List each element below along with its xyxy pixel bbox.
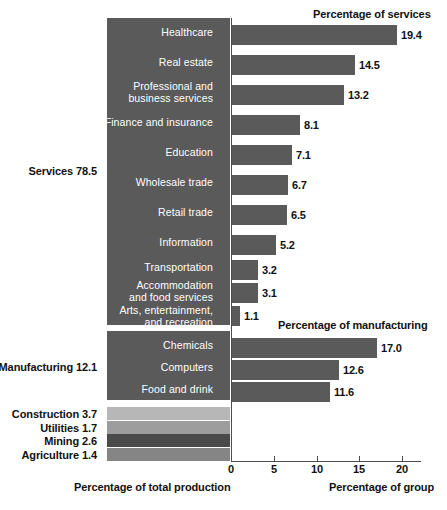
x-axis-tick-label: 15 (353, 463, 365, 475)
single-row-bar-construction (107, 407, 230, 420)
services-bar (231, 55, 355, 75)
services-bar (231, 260, 258, 280)
single-row-label-agriculture: Agriculture 1.4 (0, 449, 97, 461)
services-category-label: Finance and insurance (93, 117, 213, 129)
services-bar (231, 235, 276, 255)
services-bar-value: 7.1 (296, 149, 311, 161)
x-axis-tick-label: 5 (271, 463, 277, 475)
services-bar-value: 1.1 (244, 310, 259, 322)
single-row-bar-mining (107, 434, 230, 447)
services-bar-value: 6.7 (292, 179, 307, 191)
services-bar-value: 3.1 (262, 287, 277, 299)
left-axis-caption: Percentage of total production (74, 481, 231, 493)
right-axis-caption: Percentage of group (329, 481, 434, 493)
services-category-label: Transportation (93, 262, 213, 274)
x-axis-tick-label: 0 (228, 463, 234, 475)
single-row-bar-utilities (107, 421, 230, 434)
services-bar-value: 3.2 (262, 264, 277, 276)
manufacturing-bar-value: 12.6 (343, 364, 364, 376)
manufacturing-category-label: Chemicals (93, 340, 213, 352)
services-bar (231, 85, 344, 105)
services-category-label: Real estate (93, 57, 213, 69)
manufacturing-total-label: Manufacturing 12.1 (0, 361, 97, 373)
services-bar-value: 5.2 (280, 239, 295, 251)
x-axis-tick (274, 456, 275, 461)
y-axis-line (231, 18, 232, 461)
services-bar (231, 175, 288, 195)
single-row-bar-agriculture (107, 448, 230, 461)
x-axis-tick (402, 456, 403, 461)
single-row-label-utilities: Utilities 1.7 (0, 422, 97, 434)
x-axis-tick (359, 456, 360, 461)
single-row-label-construction: Construction 3.7 (0, 408, 97, 420)
services-category-label: Wholesale trade (93, 177, 213, 189)
services-category-label: Arts, entertainment, and recreation (93, 305, 213, 328)
services-bar (231, 205, 287, 225)
services-bar-value: 6.5 (291, 209, 306, 221)
services-category-label: Education (93, 147, 213, 159)
production-breakdown-chart: Percentage of servicesPercentage of manu… (0, 0, 447, 510)
services-category-label: Retail trade (93, 207, 213, 219)
services-category-label: Accommodation and food services (93, 280, 213, 303)
manufacturing-bar (231, 360, 339, 380)
x-axis-line (231, 461, 421, 462)
services-bar (231, 306, 240, 326)
single-row-label-mining: Mining 2.6 (0, 435, 97, 447)
manufacturing-category-label: Computers (93, 362, 213, 374)
manufacturing-bar-value: 17.0 (381, 342, 402, 354)
x-axis-tick (317, 456, 318, 461)
services-total-label: Services 78.5 (0, 165, 97, 177)
x-axis-tick-label: 10 (311, 463, 323, 475)
services-bar-value: 19.4 (401, 29, 422, 41)
services-bar-value: 14.5 (359, 59, 380, 71)
services-bar (231, 283, 258, 303)
manufacturing-section-header: Percentage of manufacturing (278, 319, 428, 331)
manufacturing-category-label: Food and drink (93, 384, 213, 396)
x-axis-tick-label: 20 (396, 463, 408, 475)
manufacturing-bar (231, 338, 377, 358)
services-bar (231, 145, 292, 165)
services-category-label: Information (93, 237, 213, 249)
services-bar (231, 115, 300, 135)
services-bar-value: 8.1 (304, 119, 319, 131)
services-bar (231, 25, 397, 45)
services-category-label: Healthcare (93, 27, 213, 39)
services-category-label: Professional and business services (93, 81, 213, 104)
manufacturing-bar-value: 11.6 (334, 386, 354, 398)
manufacturing-bar (231, 382, 330, 402)
services-section-header: Percentage of services (313, 8, 431, 20)
services-bar-value: 13.2 (348, 89, 369, 101)
